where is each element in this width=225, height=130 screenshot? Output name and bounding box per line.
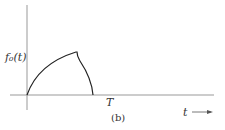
x-axis-label: t bbox=[183, 107, 187, 118]
figure-canvas bbox=[0, 0, 225, 130]
y-axis-label: f₀(t) bbox=[5, 52, 26, 63]
x-tick-label-T: T bbox=[106, 97, 113, 108]
pulse-curve bbox=[27, 52, 93, 95]
arrow-head-icon bbox=[207, 110, 213, 114]
figure-caption: (b) bbox=[111, 113, 125, 123]
